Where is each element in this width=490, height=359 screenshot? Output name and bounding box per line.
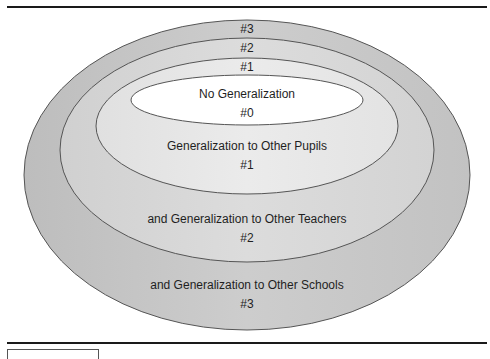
level-2-description: and Generalization to Other Teachers: [147, 212, 346, 226]
caption-box: [7, 349, 99, 359]
bottom-rule: [7, 342, 487, 344]
level-3-top-label: #3: [240, 22, 254, 36]
level-2-bottom-label: #2: [240, 231, 254, 245]
level-3-bottom-label: #3: [240, 297, 254, 311]
level-0-description: No Generalization: [199, 87, 295, 101]
level-1-description: Generalization to Other Pupils: [167, 139, 327, 153]
level-0-bottom-label: #0: [240, 106, 254, 120]
level-3-description: and Generalization to Other Schools: [150, 278, 343, 292]
level-2-top-label: #2: [240, 41, 254, 55]
level-1-bottom-label: #1: [240, 158, 254, 172]
level-1-top-label: #1: [240, 60, 254, 74]
